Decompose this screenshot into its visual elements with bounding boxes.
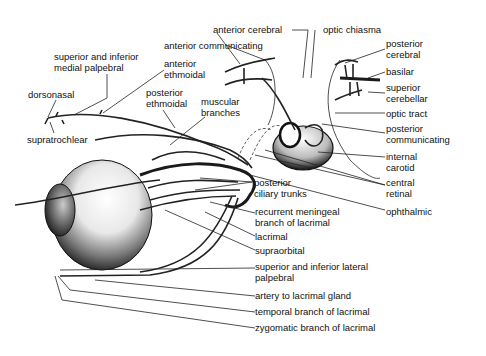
label-temporal-branch-lacrimal: temporal branch of lacrimal <box>255 306 370 317</box>
label-internal-carotid: internal carotid <box>386 151 417 173</box>
label-superior-cerebellar: superior cerebellar <box>386 82 428 104</box>
label-superior-inferior-medial-palpebral: superior and inferior medial palpebral <box>54 51 139 73</box>
label-zygomatic-branch-lacrimal: zygomatic branch of lacrimal <box>255 322 375 333</box>
label-artery-to-lacrimal-gland: artery to lacrimal gland <box>255 290 351 301</box>
label-supraorbital: supraorbital <box>255 245 305 256</box>
basilar-system <box>328 60 380 178</box>
label-posterior-ciliary-trunks: posterior ciliary trunks <box>254 177 307 199</box>
label-optic-tract: optic tract <box>386 108 427 119</box>
label-basilar: basilar <box>386 66 414 77</box>
label-anterior-ethmoidal: anterior ethmoidal <box>164 58 205 80</box>
anterior-communicating-vessel <box>225 58 275 85</box>
label-posterior-ethmoidal: posterior ethmoidal <box>146 87 187 109</box>
eyeball <box>45 160 152 270</box>
label-supratrochlear: supratrochlear <box>27 134 88 145</box>
internal-carotid-section <box>273 123 333 170</box>
label-dorsonasal: dorsonasal <box>28 89 74 100</box>
label-superior-inferior-lateral-palpebral: superior and inferior lateral palpebral <box>255 261 368 283</box>
label-lacrimal: lacrimal <box>255 231 288 242</box>
label-central-retinal: central retinal <box>386 177 415 199</box>
label-anterior-cerebral: anterior cerebral <box>213 24 282 35</box>
label-ophthalmic: ophthalmic <box>386 206 432 217</box>
label-recurrent-meningeal: recurrent meningeal branch of lacrimal <box>255 206 340 228</box>
label-optic-chiasma: optic chiasma <box>323 24 381 35</box>
orbital-arteries-diagram: superior and inferior medial palpebral d… <box>0 0 486 356</box>
label-muscular-branches: muscular branches <box>201 96 240 118</box>
label-anterior-communicating: anterior communicating <box>164 40 263 51</box>
label-posterior-communicating: posterior communicating <box>386 123 450 145</box>
label-posterior-cerebral: posterior cerebral <box>386 38 423 60</box>
